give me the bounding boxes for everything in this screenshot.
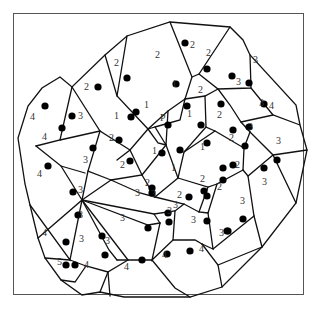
site-dot xyxy=(68,112,75,119)
site-dot xyxy=(58,124,65,131)
cell-label: 4 xyxy=(30,111,35,122)
site-dot xyxy=(158,149,165,156)
cell-label: 3 xyxy=(219,227,224,238)
cell-label: 2 xyxy=(206,47,211,58)
cell-label: 3 xyxy=(135,187,140,198)
cell-label: 3 xyxy=(120,212,125,223)
point-p-label: P xyxy=(160,112,166,123)
cell-label: 1 xyxy=(171,162,176,173)
cell-label: 2 xyxy=(114,57,119,68)
cell-label: 3 xyxy=(79,233,84,244)
site-dot xyxy=(260,164,267,171)
site-dot xyxy=(71,261,78,268)
cell-label: 1 xyxy=(172,78,177,89)
cell-label: 3 xyxy=(240,195,245,206)
cell-label: 4 xyxy=(42,131,47,142)
cell-label: 3 xyxy=(167,205,172,216)
site-dot xyxy=(217,100,224,107)
site-dot xyxy=(69,188,76,195)
site-dot xyxy=(41,102,48,109)
cell-label: 2 xyxy=(200,173,205,184)
cell-label: 1 xyxy=(114,110,119,121)
site-dot xyxy=(62,261,69,268)
cell-label: 3 xyxy=(83,154,88,165)
cell-label: 3 xyxy=(236,76,241,87)
cell-edge xyxy=(178,178,217,187)
cell-label: 3 xyxy=(151,188,156,199)
site-dot xyxy=(197,121,204,128)
cell-label: 2 xyxy=(145,177,150,188)
cell-edge xyxy=(248,176,262,247)
cell-edge xyxy=(60,131,100,140)
site-dot xyxy=(203,217,210,224)
cell-edge xyxy=(61,266,86,282)
cell-edge xyxy=(154,214,160,223)
cell-label: 3 xyxy=(173,199,178,210)
cell-edge xyxy=(192,27,230,77)
cell-edge xyxy=(88,131,111,180)
site-dot xyxy=(185,193,192,200)
site-dot xyxy=(203,65,210,72)
cell-label: 2 xyxy=(120,159,125,170)
site-dot xyxy=(273,156,280,163)
cell-label: 2 xyxy=(177,189,182,200)
site-dot xyxy=(138,256,145,263)
cell-label: 3 xyxy=(105,235,110,246)
cell-edge xyxy=(273,150,307,155)
cell-label: 4 xyxy=(199,243,204,254)
site-dot xyxy=(115,136,122,143)
site-dot xyxy=(219,164,226,171)
cell-edge xyxy=(208,170,243,213)
site-dot xyxy=(62,238,69,245)
site-dot xyxy=(144,224,151,231)
cell-edge xyxy=(218,247,262,265)
cell-label: 2 xyxy=(155,49,160,60)
cell-sites xyxy=(41,39,280,268)
cell-edge xyxy=(152,260,190,297)
cell-label: 2 xyxy=(190,39,195,50)
site-dot xyxy=(123,74,130,81)
cell-label: 1 xyxy=(152,145,157,156)
site-dot xyxy=(239,215,246,222)
cell-label: 3 xyxy=(191,214,196,225)
cell-label: 4 xyxy=(42,227,47,238)
cell-edge xyxy=(111,150,142,180)
cell-label: 2 xyxy=(198,84,203,95)
site-dot xyxy=(94,83,101,90)
cell-label: 3 xyxy=(78,184,83,195)
site-dot xyxy=(186,247,193,254)
cell-edge xyxy=(130,129,148,150)
cell-label: 1 xyxy=(187,108,192,119)
cell-label: 3 xyxy=(262,176,267,187)
site-dot xyxy=(181,39,188,46)
cell-label: 2 xyxy=(229,132,234,143)
cell-label: 2 xyxy=(84,81,89,92)
site-dot xyxy=(228,72,235,79)
cell-edge xyxy=(218,89,250,132)
cell-edge xyxy=(250,132,296,203)
site-dot xyxy=(89,144,96,151)
cell-label: 4 xyxy=(84,259,89,270)
cell-edge xyxy=(82,200,117,260)
site-dot xyxy=(165,218,172,225)
cell-label: 3 xyxy=(248,121,253,132)
cell-edge xyxy=(72,87,130,160)
cell-edge xyxy=(82,180,111,200)
cell-edge xyxy=(36,146,85,173)
cell-edge xyxy=(243,155,273,176)
site-dot xyxy=(176,146,183,153)
cell-label: 3 xyxy=(253,54,258,65)
site-dot xyxy=(44,162,51,169)
site-dot xyxy=(223,227,230,234)
cell-label: 3 xyxy=(276,135,281,146)
voronoi-diagram: 432222212112P124433211122333433333454333… xyxy=(0,0,315,309)
cell-label: 4 xyxy=(269,100,274,111)
cell-label: 3 xyxy=(78,110,83,121)
cell-edge xyxy=(202,244,222,287)
site-dot xyxy=(241,142,248,149)
site-dot xyxy=(126,157,133,164)
cell-edge xyxy=(205,96,215,131)
cell-label: 5 xyxy=(57,256,62,267)
cell-edge xyxy=(108,272,110,296)
cell-label: 4 xyxy=(124,261,129,272)
